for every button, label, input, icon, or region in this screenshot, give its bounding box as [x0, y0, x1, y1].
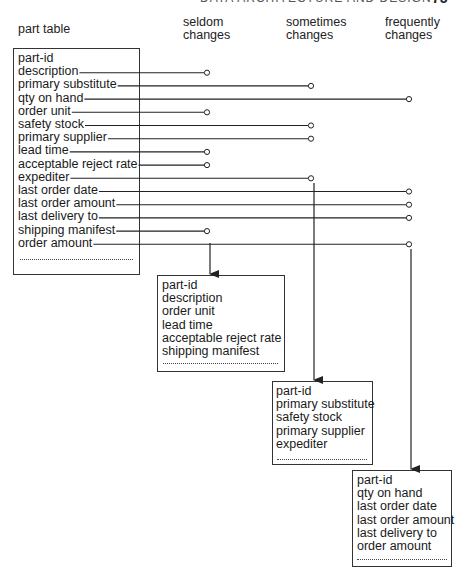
endpoint-circle-icon: [308, 176, 313, 181]
endpoint-circle-icon: [406, 189, 411, 194]
connector-lines: [0, 0, 466, 582]
endpoint-circle-icon: [406, 97, 411, 102]
endpoint-circle-icon: [308, 136, 313, 141]
endpoint-circle-icon: [204, 110, 209, 115]
endpoint-circle-icon: [204, 149, 209, 154]
endpoint-circle-icon: [308, 123, 313, 128]
endpoint-circle-icon: [204, 70, 209, 75]
endpoint-circle-icon: [204, 163, 209, 168]
endpoint-circle-icon: [204, 229, 209, 234]
endpoint-circle-icon: [406, 215, 411, 220]
endpoint-circle-icon: [406, 202, 411, 207]
endpoint-circle-icon: [308, 83, 313, 88]
endpoint-circle-icon: [406, 242, 411, 247]
